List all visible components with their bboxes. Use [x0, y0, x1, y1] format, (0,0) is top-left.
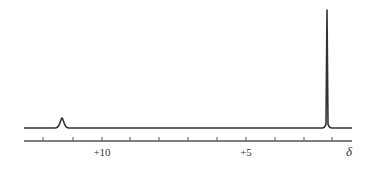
nmr-spectrum-chart: +10 +5 δ	[0, 0, 372, 170]
spectrum-trace	[24, 10, 352, 128]
x-axis-label-delta: δ	[346, 144, 353, 159]
tick-label-5: +5	[240, 146, 252, 158]
tick-label-10: +10	[93, 146, 111, 158]
